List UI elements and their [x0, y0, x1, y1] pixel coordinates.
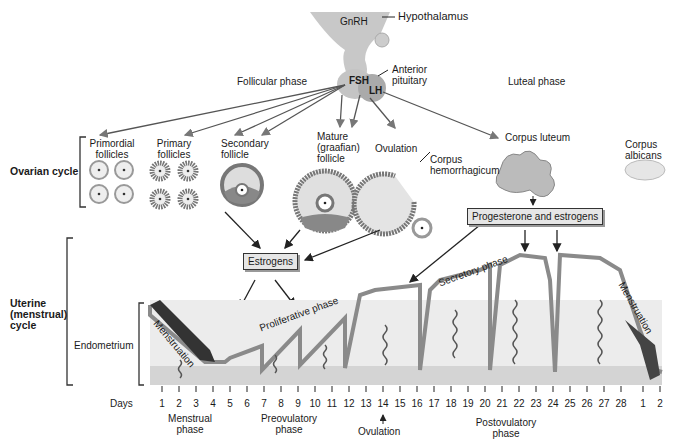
day-tick-label: 27 [596, 398, 612, 409]
preovulatory-phase-label: Preovulatoryphase [254, 413, 324, 435]
secondary-follicle-icon [222, 165, 262, 205]
stage-corpus-albicans: Corpusalbicans [625, 139, 662, 161]
luteal-phase-label: Luteal phase [508, 76, 565, 87]
stage-mature: Mature(graafian)follicle [317, 131, 360, 164]
progesterone-estrogens-box: Progesterone and estrogens [467, 208, 603, 225]
day-tick-label: 10 [307, 398, 323, 409]
day-ticks [162, 386, 660, 392]
day-tick-label: 13 [358, 398, 374, 409]
day-tick-label: 26 [579, 398, 595, 409]
day-tick-label: 5 [222, 398, 238, 409]
day-tick-label: 2 [652, 398, 668, 409]
estrogens-box: Estrogens [243, 253, 298, 270]
stage-corpus-hemorrhagicum: Corpushemorrhagicum [430, 154, 499, 176]
day-tick-label: 2 [171, 398, 187, 409]
day-tick-label: 4 [205, 398, 221, 409]
day-tick-label: 28 [613, 398, 629, 409]
stage-corpus-luteum: Corpus luteum [505, 132, 570, 143]
follicular-phase-label: Follicular phase [237, 76, 307, 87]
day-tick-label: 18 [443, 398, 459, 409]
postovulatory-phase-label: Postovulatoryphase [468, 417, 544, 439]
primordial-follicles-icon [90, 161, 133, 203]
day-tick-label: 25 [562, 398, 578, 409]
primary-follicles-icon [152, 163, 196, 207]
day-tick-label: 1 [635, 398, 651, 409]
day-tick-label: 1 [154, 398, 170, 409]
hypothalamus-label: Hypothalamus [398, 11, 468, 22]
lh-label: LH [369, 85, 382, 96]
day-tick-label: 12 [341, 398, 357, 409]
stage-ovulation: Ovulation [375, 143, 417, 154]
day-tick-label: 17 [426, 398, 442, 409]
corpus-albicans-icon [625, 160, 665, 180]
ovarian-cycle-label: Ovarian cycle [10, 166, 78, 177]
day-tick-label: 22 [511, 398, 527, 409]
day-tick-label: 24 [545, 398, 561, 409]
endometrium-label: Endometrium [74, 340, 133, 351]
day-tick-label: 3 [188, 398, 204, 409]
ovulation-day-label: Ovulation [358, 426, 400, 437]
day-tick-label: 14 [375, 398, 391, 409]
mature-follicle-icon [295, 171, 355, 232]
day-tick-label: 20 [477, 398, 493, 409]
day-tick-label: 11 [324, 398, 340, 409]
endometrium-graphic [150, 255, 662, 385]
uterine-cycle-label: Uterine(menstrual)cycle [10, 298, 67, 331]
day-tick-label: 7 [256, 398, 272, 409]
gnrh-label: GnRH [340, 16, 368, 27]
day-tick-label: 21 [494, 398, 510, 409]
day-tick-label: 9 [290, 398, 306, 409]
day-tick-label: 19 [460, 398, 476, 409]
day-tick-label: 6 [239, 398, 255, 409]
corpus-luteum-icon [496, 151, 555, 197]
fsh-label: FSH [349, 75, 369, 86]
ovulation-follicle-icon [354, 174, 431, 237]
day-tick-label: 15 [392, 398, 408, 409]
day-tick-label: 16 [409, 398, 425, 409]
days-label: Days [110, 398, 133, 409]
menstrual-phase-label: Menstrualphase [160, 413, 220, 435]
day-tick-label: 8 [273, 398, 289, 409]
day-tick-label: 23 [528, 398, 544, 409]
anterior-pituitary-label: Anteriorpituitary [392, 64, 427, 86]
stage-primary: Primaryfollicles [152, 138, 196, 160]
stage-primordial: Primordialfollicles [88, 138, 136, 160]
stage-secondary: Secondaryfollicle [221, 138, 269, 160]
